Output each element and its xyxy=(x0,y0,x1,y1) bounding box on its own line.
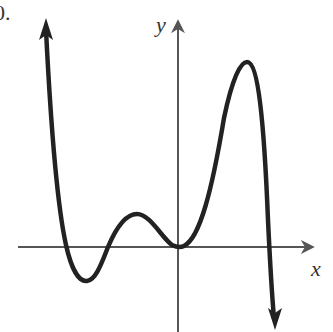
polynomial-curve xyxy=(46,30,274,318)
polynomial-graph xyxy=(0,0,333,332)
x-axis-label: x xyxy=(311,258,321,280)
y-axis-label: y xyxy=(156,14,166,36)
